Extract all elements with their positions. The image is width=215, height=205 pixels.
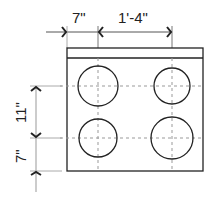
cooktop-diagram: 7" 1'-4" 11" 7" (0, 0, 215, 205)
dim-vertical-spacing: 11" (12, 102, 29, 123)
horizontal-dimension (46, 26, 172, 48)
dim-bottom-offset: 7" (12, 149, 29, 163)
cooktop-outline (67, 48, 203, 171)
dim-horizontal-spacing: 1'-4" (118, 9, 148, 26)
vertical-dimension (30, 86, 62, 192)
burner-top-right (154, 68, 190, 104)
dim-left-offset: 7" (72, 9, 86, 26)
